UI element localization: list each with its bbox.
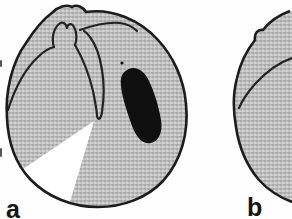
panel-a-speck	[120, 61, 123, 64]
scan-artifact	[0, 148, 2, 157]
panel-a-label: a	[6, 197, 20, 219]
panel-b-label: b	[247, 195, 262, 219]
two-panel-illustration	[0, 0, 292, 219]
panel-b-body-fill	[234, 11, 292, 202]
panel-b-illustration	[234, 11, 292, 202]
panel-a-illustration	[7, 6, 187, 212]
scan-artifact	[0, 60, 2, 67]
figure-canvas: a b	[0, 0, 292, 219]
